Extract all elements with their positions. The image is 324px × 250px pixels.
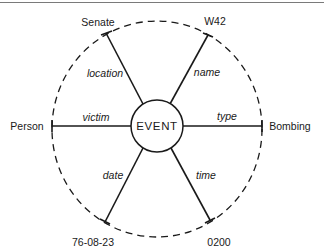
filler-label-person: Person: [10, 120, 43, 132]
relation-label-victim: victim: [83, 111, 110, 123]
relation-label-name: name: [194, 66, 220, 78]
spoke-date: [105, 148, 143, 222]
filler-label-bombing: Bombing: [269, 120, 311, 132]
relation-label-type: type: [217, 110, 237, 122]
spoke-time: [171, 148, 210, 220]
event-frame-diagram: EVENT location name type time date victi…: [0, 0, 324, 250]
filler-label-senate: Senate: [81, 16, 114, 28]
relation-label-time: time: [196, 169, 216, 181]
relation-label-location: location: [87, 67, 123, 79]
event-node-label: EVENT: [136, 120, 177, 132]
filler-label-w42: W42: [204, 15, 226, 27]
relation-label-date: date: [103, 169, 124, 181]
filler-label-date-value: 76-08-23: [72, 236, 114, 248]
filler-label-0200: 0200: [207, 236, 231, 248]
